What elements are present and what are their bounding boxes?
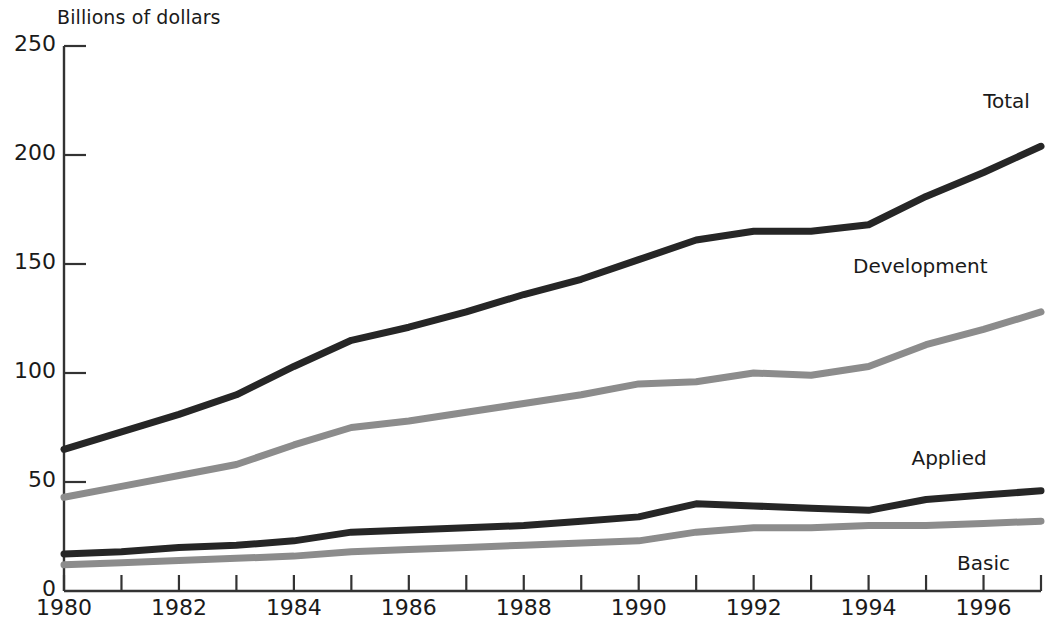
data-lines: [64, 146, 1041, 565]
axes: [64, 46, 1041, 591]
rd-spending-line-chart: Billions of dollars 050100150200250 1980…: [0, 0, 1049, 623]
plot-area: [0, 0, 1049, 623]
